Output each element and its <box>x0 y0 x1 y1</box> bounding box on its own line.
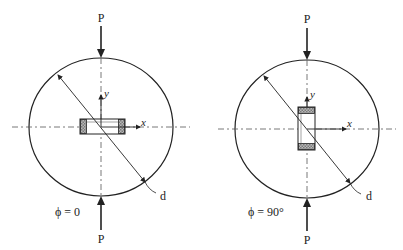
diameter-dimension-line <box>58 75 145 182</box>
bottom-load-arrowhead-icon <box>303 198 311 207</box>
angle-label: ϕ = 90° <box>248 205 284 219</box>
top-load-arrowhead-icon <box>97 49 105 58</box>
diameter-label: d <box>366 189 372 203</box>
diameter-leader-line <box>145 182 156 193</box>
strain-gauge-right <box>119 120 125 134</box>
x-axis-label: x <box>346 117 352 129</box>
diameter-leader-line <box>350 183 361 194</box>
top-load-label: P <box>98 11 105 25</box>
bottom-load-arrowhead-icon <box>97 196 105 205</box>
diagram-canvas: P P x y d ϕ = 0 P P <box>0 0 403 250</box>
top-load-label: P <box>304 12 311 26</box>
figure-phi-0: P P x y d ϕ = 0 <box>12 11 190 246</box>
y-axis-label: y <box>309 88 315 100</box>
figure-phi-90: P P x y d ϕ = 90° <box>218 12 396 247</box>
diameter-label: d <box>160 189 166 203</box>
y-axis-label: y <box>103 87 109 99</box>
strain-gauge-left <box>81 120 87 134</box>
strain-gauge-top <box>299 108 315 114</box>
x-axis-label: x <box>140 116 146 128</box>
top-load-arrowhead-icon <box>303 51 311 60</box>
strain-gauge-bottom <box>299 144 315 150</box>
angle-label: ϕ = 0 <box>55 205 80 219</box>
bottom-load-label: P <box>304 233 311 247</box>
bottom-load-label: P <box>98 232 105 246</box>
